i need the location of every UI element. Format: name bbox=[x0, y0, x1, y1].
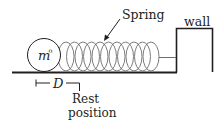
spring-arrow-shaft bbox=[107, 19, 120, 37]
spring bbox=[58, 42, 176, 71]
rest-position-label-line2: position bbox=[68, 106, 117, 120]
mass-superscript: o bbox=[49, 47, 53, 55]
wall-label: wall bbox=[184, 14, 210, 29]
displacement-label: D bbox=[52, 76, 64, 91]
wall bbox=[177, 29, 213, 73]
rest-position-label-line1: Rest bbox=[72, 92, 99, 106]
spring-mass-diagram: m o Spring wall D Rest position bbox=[0, 0, 223, 125]
spring-label: Spring bbox=[122, 7, 165, 22]
